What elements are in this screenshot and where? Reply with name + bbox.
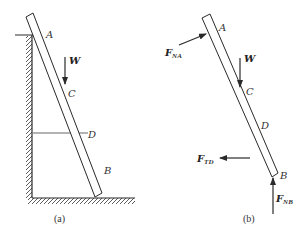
label-b-point-a: A	[218, 22, 226, 33]
wall-hatching	[26, 36, 32, 198]
floor-hatching	[28, 198, 135, 204]
ladder-statics-diagram: A W C D B (a) A W C D B FNA FTD FNB (b)	[0, 0, 303, 234]
force-na-arrow	[179, 34, 206, 45]
caption-b: (b)	[243, 213, 255, 225]
label-b-weight: W	[244, 53, 257, 64]
label-a-weight: W	[69, 55, 82, 66]
label-a-point-d: D	[87, 129, 96, 140]
figure-b: A W C D B FNA FTD FNB (b)	[164, 14, 293, 225]
label-a-point-a: A	[45, 29, 53, 40]
ladder-a	[26, 13, 102, 197]
label-force-td: FTD	[196, 153, 213, 166]
label-b-point-d: D	[260, 120, 269, 131]
caption-a: (a)	[54, 213, 65, 225]
label-b-point-c: C	[246, 86, 254, 97]
label-a-point-c: C	[68, 88, 76, 99]
label-b-point-b: B	[279, 170, 287, 181]
figure-a: A W C D B (a)	[15, 13, 135, 225]
label-force-na: FNA	[164, 47, 182, 60]
label-a-point-b: B	[103, 165, 111, 176]
label-force-nb: FNB	[275, 193, 293, 206]
ladder-b	[202, 14, 278, 177]
